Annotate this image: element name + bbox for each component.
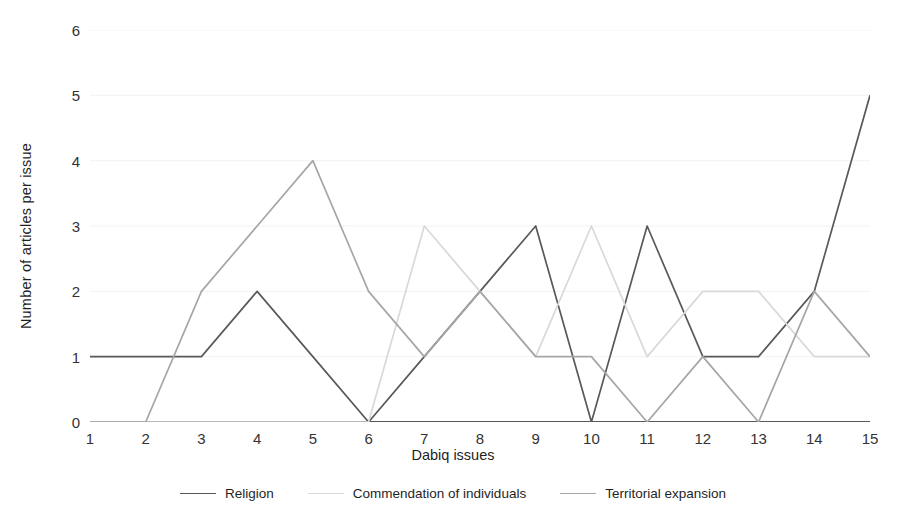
legend-label-religion: Religion: [225, 486, 274, 501]
x-tick-label: 4: [253, 430, 261, 447]
x-tick-label: 6: [364, 430, 372, 447]
x-tick-label: 8: [476, 430, 484, 447]
legend-swatch-religion: [180, 493, 216, 494]
legend-item-commendation-of-individuals[interactable]: Commendation of individuals: [308, 486, 526, 501]
x-tick-label: 10: [583, 430, 600, 447]
x-tick-label: 15: [862, 430, 879, 447]
legend-item-territorial-expansion[interactable]: Territorial expansion: [560, 486, 726, 501]
legend-label-commendation-of-individuals: Commendation of individuals: [353, 486, 526, 501]
x-tick-label: 14: [806, 430, 823, 447]
x-tick-label: 11: [639, 430, 655, 447]
legend-swatch-commendation-of-individuals: [308, 493, 344, 494]
x-tick-label: 3: [197, 430, 205, 447]
x-tick-label: 5: [309, 430, 317, 447]
series-line-commendation-of-individuals: [90, 226, 870, 422]
legend-label-territorial-expansion: Territorial expansion: [605, 486, 726, 501]
x-tick-label: 9: [532, 430, 540, 447]
x-tick-label: 12: [695, 430, 712, 447]
plot-area: [90, 30, 870, 422]
line-chart: Number of articles per issue 0123456 123…: [0, 0, 906, 532]
x-axis-title: Dabiq issues: [0, 447, 906, 463]
x-tick-label: 13: [750, 430, 767, 447]
x-tick-label: 2: [142, 430, 150, 447]
series-line-religion: [90, 95, 870, 422]
chart-legend: ReligionCommendation of individualsTerri…: [0, 486, 906, 501]
x-tick-label: 7: [420, 430, 428, 447]
x-tick-label: 1: [86, 430, 94, 447]
legend-swatch-territorial-expansion: [560, 493, 596, 494]
legend-item-religion[interactable]: Religion: [180, 486, 274, 501]
